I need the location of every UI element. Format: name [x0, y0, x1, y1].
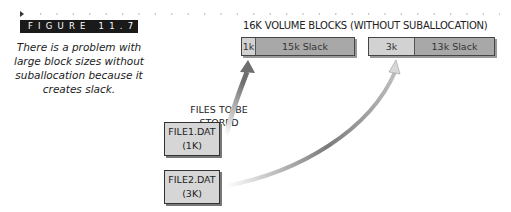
- arrow-file1-to-block1-icon: [226, 60, 255, 136]
- arrows-layer: [0, 0, 511, 212]
- arrow-file2-to-block2-icon: [226, 60, 400, 186]
